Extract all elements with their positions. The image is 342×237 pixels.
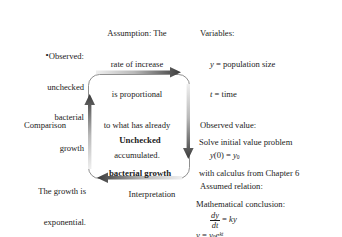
solve-line-2: with calculus from Chapter 6 — [199, 168, 341, 178]
variable-y-line: y = population size — [200, 59, 340, 69]
variable-t-equals: = — [215, 89, 220, 99]
observed-line-1: •Observed: — [6, 50, 84, 61]
assumption-line-3: is proportional — [94, 89, 180, 99]
variable-t-meaning: time — [222, 89, 237, 99]
conclusion-lhs: y — [196, 230, 200, 237]
assumption-line-5: accumulated. — [94, 150, 180, 160]
variable-t-line: t = time — [200, 89, 340, 99]
assumption-line-1: Assumption: The — [94, 28, 180, 38]
growth-line-2: exponential. — [4, 217, 86, 227]
conclusion-rhs-exponent: kt — [219, 230, 223, 236]
conclusion-node: Mathematical conclusion: y = y0ekt — [196, 179, 340, 237]
observed-label: Observed: — [49, 51, 84, 61]
variable-y-equals: = — [216, 59, 221, 69]
conclusion-heading: Mathematical conclusion: — [196, 199, 340, 209]
growth-interpretation-node: The growth is exponential. There will be… — [4, 166, 86, 237]
variable-y-symbol: y — [210, 59, 214, 69]
conclusion-equals: = — [202, 230, 207, 237]
modeling-cycle-diagram: Unchecked bacterial growth •Observed: un… — [0, 0, 342, 237]
observed-node: •Observed: unchecked bacterial growth — [6, 30, 84, 173]
variables-heading: Variables: — [200, 28, 340, 38]
solve-line-1: Solve initial value problem — [199, 137, 341, 147]
conclusion-equation: y = y0ekt — [196, 230, 340, 237]
variable-t-symbol: t — [210, 89, 212, 99]
observed-line-4: growth — [6, 143, 84, 153]
variable-y-meaning: population size — [223, 59, 275, 69]
assumption-line-2: rate of increase — [94, 59, 180, 69]
assumption-node: Assumption: The rate of increase is prop… — [94, 8, 180, 180]
assumption-line-4: to what has already — [94, 120, 180, 130]
growth-line-1: The growth is — [4, 186, 86, 196]
comparison-edge-label: Comparison — [12, 120, 78, 130]
observed-line-2: unchecked — [6, 82, 84, 92]
interpretation-edge-label: Interpretation — [112, 189, 192, 199]
